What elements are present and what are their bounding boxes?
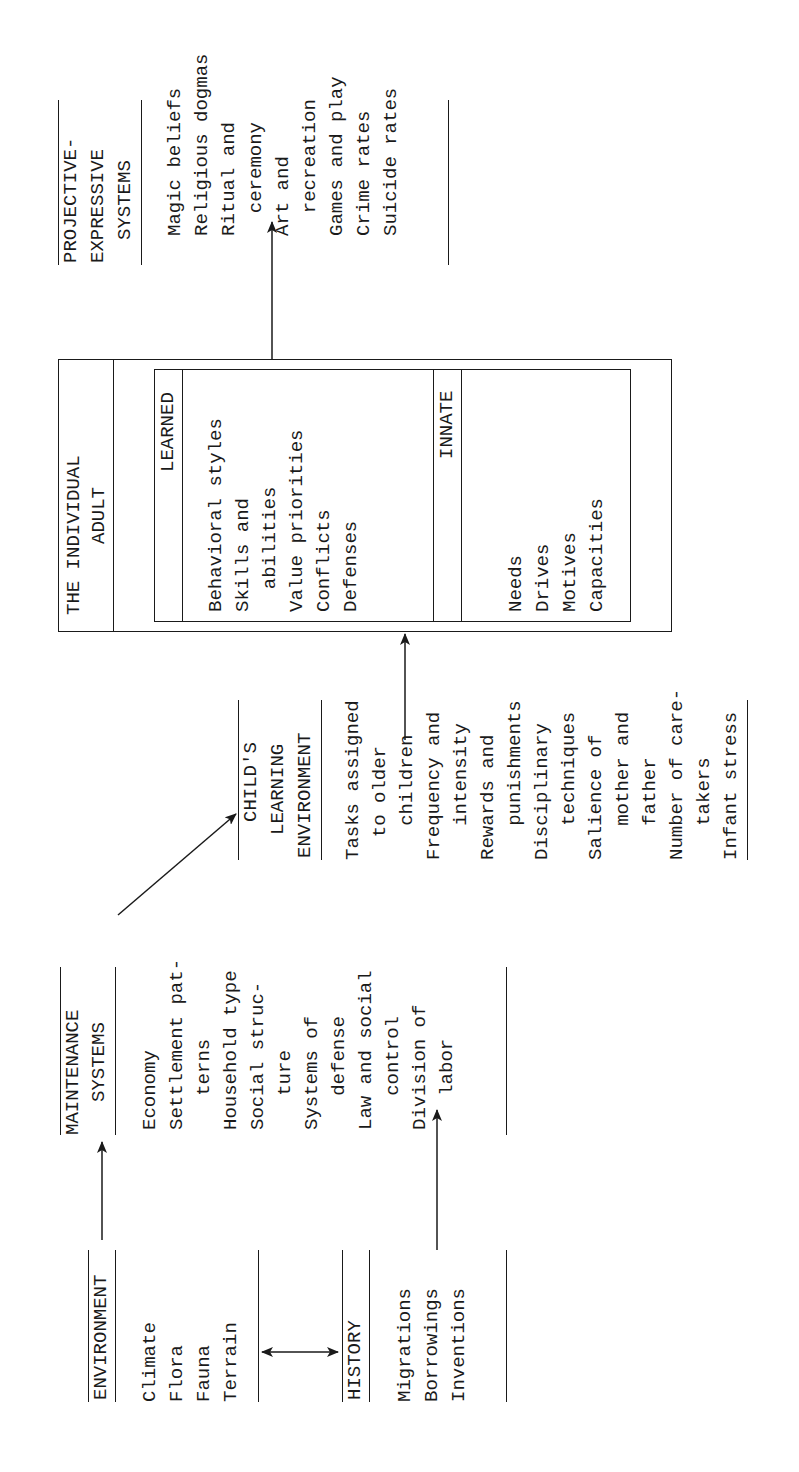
list-item: Climate	[137, 1322, 164, 1402]
divider	[747, 700, 748, 860]
list-item: Games and play	[324, 76, 351, 236]
list-item: Skills and	[230, 498, 257, 612]
list-item: Religious dogmas	[189, 54, 216, 236]
diagram-canvas: ENVIRONMENT Climate Flora Fauna Terrain …	[0, 0, 799, 1472]
divider	[258, 1250, 259, 1402]
list-item: to older	[367, 746, 394, 860]
list-item: Migrations	[392, 1288, 419, 1402]
maintenance-title-line2: SYSTEMS	[86, 1022, 113, 1102]
projective-title-line3: SYSTEMS	[112, 160, 139, 240]
divider	[461, 369, 462, 622]
list-item: Capacities	[584, 498, 611, 612]
maintenance-title-line1: MAINTENANCE	[60, 1010, 87, 1135]
list-item: ceremony	[243, 122, 270, 236]
list-item: Needs	[503, 555, 530, 612]
list-item: Behavioral styles	[203, 418, 230, 612]
list-item: Disciplinary	[529, 723, 556, 860]
divider	[113, 359, 114, 632]
child-title-line1: CHILD'S	[238, 742, 265, 822]
divider	[115, 1250, 116, 1402]
list-item: Defenses	[338, 521, 365, 612]
divider	[182, 369, 183, 622]
list-item: Systems of	[299, 1016, 326, 1130]
list-item: Tasks assigned	[340, 700, 367, 860]
list-item: Fauna	[191, 1345, 218, 1402]
list-item: Suicide rates	[378, 88, 405, 236]
list-item: Motives	[557, 532, 584, 612]
list-item: punishments	[502, 700, 529, 860]
divider	[321, 700, 322, 860]
adult-title-line1: THE INDIVIDUAL	[61, 455, 88, 615]
list-item: control	[380, 1016, 407, 1130]
list-item: Law and social	[353, 970, 380, 1130]
arrow-maintenance-to-child	[118, 814, 236, 915]
list-item: intensity	[448, 723, 475, 860]
list-item: techniques	[556, 712, 583, 860]
divider	[448, 100, 449, 265]
list-item: Social struc-	[245, 982, 272, 1130]
list-item: Ritual and	[216, 122, 243, 236]
list-item: Value priorities	[284, 430, 311, 612]
list-item: Art and	[270, 156, 297, 236]
divider	[141, 100, 142, 265]
list-item: Economy	[137, 1050, 164, 1130]
list-item: ture	[272, 1050, 299, 1130]
history-title: HISTORY	[342, 1320, 369, 1400]
list-item: Number of care-	[664, 689, 691, 860]
list-item: abilities	[257, 487, 284, 612]
list-item: Infant stress	[718, 712, 745, 860]
environment-title: ENVIRONMENT	[88, 1275, 115, 1400]
divider	[506, 967, 507, 1135]
projective-title-line2: EXPRESSIVE	[85, 149, 112, 263]
adult-title-line2: ADULT	[86, 487, 113, 544]
list-item: terns	[191, 1039, 218, 1130]
list-item: Settlement pat-	[164, 959, 191, 1130]
list-item: Household type	[218, 970, 245, 1130]
list-item: defense	[326, 1016, 353, 1130]
list-item: takers	[691, 757, 718, 860]
list-item: Drives	[530, 544, 557, 612]
list-item: Inventions	[446, 1288, 473, 1402]
child-title-line3: ENVIRONMENT	[292, 733, 319, 858]
list-item: Conflicts	[311, 509, 338, 612]
list-item: labor	[434, 1039, 461, 1130]
divider	[115, 967, 116, 1135]
innate-title: INNATE	[434, 391, 461, 459]
divider	[506, 1250, 507, 1402]
list-item: father	[637, 757, 664, 860]
list-item: recreation	[297, 99, 324, 236]
list-item: children	[394, 735, 421, 860]
projective-title-line1: PROJECTIVE-	[58, 138, 85, 263]
list-item: Rewards and	[475, 735, 502, 860]
list-item: Flora	[164, 1345, 191, 1402]
child-title-line2: LEARNING	[265, 744, 292, 835]
list-item: Crime rates	[351, 111, 378, 236]
list-item: Terrain	[218, 1322, 245, 1402]
list-item: Frequency and	[421, 712, 448, 860]
list-item: Division of	[407, 1005, 434, 1130]
divider	[369, 1250, 370, 1402]
list-item: Borrowings	[419, 1288, 446, 1402]
list-item: Magic beliefs	[162, 88, 189, 236]
list-item: mother and	[610, 712, 637, 860]
list-item: Salience of	[583, 735, 610, 860]
learned-title: LEARNED	[155, 392, 182, 472]
